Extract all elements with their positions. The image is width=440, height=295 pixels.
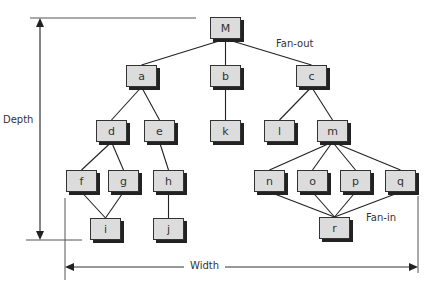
edge-f-i [82,192,106,218]
edge-M-a [142,39,226,65]
node-i: i [90,218,121,240]
edge-a-d [112,87,142,120]
node-n: n [254,170,285,192]
fan-out-label: Fan-out [274,38,315,49]
node-f: f [66,170,97,192]
node-h: h [153,170,184,192]
node-l: l [264,120,295,142]
node-c: c [296,65,327,87]
edge-c-m [312,87,333,120]
tree-diagram: Mabcdeklmfghnopqijr Depth Width Fan-out … [0,0,440,295]
edges-layer [0,0,440,295]
node-d: d [96,120,127,142]
edge-d-g [112,142,124,170]
node-M: M [210,17,241,39]
depth-arrow-down-icon [36,231,44,240]
node-e: e [144,120,175,142]
edge-a-e [142,87,160,120]
fan-in-label: Fan-in [364,212,398,223]
node-j: j [153,218,184,240]
depth-arrow-up-icon [36,18,44,27]
width-arrow-right-icon [409,263,418,271]
width-arrow-left-icon [65,263,74,271]
node-g: g [108,170,139,192]
node-p: p [340,170,371,192]
edge-g-i [106,192,124,218]
node-m: m [317,120,348,142]
edge-c-l [280,87,312,120]
width-label: Width [184,260,225,271]
edge-m-q [333,142,401,170]
node-r: r [319,217,350,239]
node-o: o [297,170,328,192]
node-b: b [210,65,241,87]
node-a: a [126,65,157,87]
node-q: q [385,170,416,192]
depth-label: Depth [1,114,35,125]
edge-d-f [82,142,112,170]
edge-e-h [160,142,169,170]
edge-n-r [270,192,335,217]
node-k: k [210,120,241,142]
